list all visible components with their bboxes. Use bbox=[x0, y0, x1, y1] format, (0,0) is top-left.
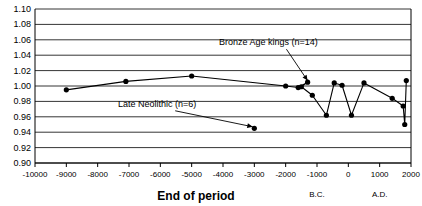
x-axis-tick-label: -4000 bbox=[213, 170, 234, 179]
x-axis-tick-label: -5000 bbox=[181, 170, 202, 179]
data-point bbox=[349, 113, 354, 118]
x-axis-tick-label: -2000 bbox=[275, 170, 296, 179]
x-axis-tick-label: -3000 bbox=[244, 170, 265, 179]
y-axis-tick-label: 1.00 bbox=[13, 81, 31, 91]
annotation-leader-line bbox=[175, 111, 253, 127]
era-labels: B.C.A.D. bbox=[309, 190, 387, 199]
y-axis-tick-label: 1.04 bbox=[13, 50, 31, 60]
data-point bbox=[390, 96, 395, 101]
data-point bbox=[361, 80, 366, 85]
scatter-line-chart: 0.900.920.940.960.981.001.021.041.061.08… bbox=[0, 0, 422, 206]
x-axis-tick-label: 2000 bbox=[402, 170, 420, 179]
x-axis-tick-label: -6000 bbox=[150, 170, 171, 179]
data-point bbox=[64, 87, 69, 92]
data-point bbox=[339, 83, 344, 88]
chart-annotations: Bronze Age kings (n=14)Late Neolithic (n… bbox=[118, 37, 318, 128]
y-axis-tick-label: 0.98 bbox=[13, 96, 31, 106]
y-axis-tick-label: 1.02 bbox=[13, 66, 31, 76]
y-axis-tick-label: 0.94 bbox=[13, 127, 31, 137]
annotation-leader-line bbox=[286, 49, 307, 80]
x-axis-tick-label: -7000 bbox=[119, 170, 140, 179]
data-series bbox=[64, 73, 409, 131]
y-axis-tick-labels: 0.900.920.940.960.981.001.021.041.061.08… bbox=[13, 4, 31, 168]
annotation-arrowhead-icon bbox=[303, 75, 308, 81]
annotation-arrowhead-icon bbox=[247, 123, 253, 128]
era-label: A.D. bbox=[372, 190, 388, 199]
x-axis-ticks bbox=[35, 163, 411, 167]
y-axis-tick-label: 1.10 bbox=[13, 4, 31, 14]
data-point bbox=[283, 83, 288, 88]
y-axis-tick-label: 1.06 bbox=[13, 35, 31, 45]
data-point bbox=[123, 79, 128, 84]
data-point bbox=[324, 113, 329, 118]
y-axis-tick-label: 0.90 bbox=[13, 158, 31, 168]
x-axis-tick-label: -9000 bbox=[56, 170, 77, 179]
data-point bbox=[310, 93, 315, 98]
data-point bbox=[404, 78, 409, 83]
x-axis-title: End of period bbox=[157, 189, 234, 203]
era-label: B.C. bbox=[309, 190, 325, 199]
x-axis-tick-labels: -10000-9000-8000-7000-6000-5000-4000-300… bbox=[23, 170, 421, 179]
data-point bbox=[299, 84, 304, 89]
x-axis-tick-label: 0 bbox=[346, 170, 351, 179]
data-point bbox=[402, 122, 407, 127]
data-point bbox=[189, 73, 194, 78]
data-point bbox=[401, 103, 406, 108]
x-axis-tick-label: 1000 bbox=[371, 170, 389, 179]
data-point bbox=[332, 80, 337, 85]
x-axis-tick-label: -10000 bbox=[23, 170, 48, 179]
annotation-label: Late Neolithic (n=6) bbox=[118, 99, 196, 109]
x-axis-tick-label: -1000 bbox=[307, 170, 328, 179]
x-axis-tick-label: -8000 bbox=[87, 170, 108, 179]
y-axis-tick-label: 1.08 bbox=[13, 19, 31, 29]
annotation-label: Bronze Age kings (n=14) bbox=[219, 37, 318, 47]
y-axis-tick-label: 0.96 bbox=[13, 112, 31, 122]
chart-container: 0.900.920.940.960.981.001.021.041.061.08… bbox=[0, 0, 422, 206]
y-axis-tick-label: 0.92 bbox=[13, 143, 31, 153]
